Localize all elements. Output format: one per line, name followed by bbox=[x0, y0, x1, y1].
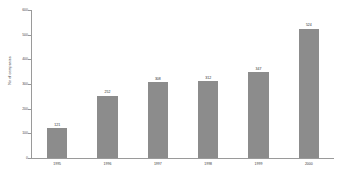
bar-group: 312 bbox=[198, 10, 218, 158]
bar bbox=[97, 96, 117, 158]
bar-group: 308 bbox=[148, 10, 168, 158]
bar bbox=[198, 81, 218, 158]
bar-chart: No of companies 0100200300400500600 1212… bbox=[0, 0, 337, 177]
y-axis-tick-mark bbox=[28, 158, 31, 159]
y-axis-tick-mark bbox=[28, 109, 31, 110]
x-axis-tick-label: 1998 bbox=[183, 162, 233, 167]
bar-group: 121 bbox=[47, 10, 67, 158]
y-axis-tick-mark bbox=[28, 84, 31, 85]
bar-value-label: 121 bbox=[54, 123, 60, 127]
bar-value-label: 252 bbox=[105, 90, 111, 94]
y-axis-tick-label: 400 bbox=[10, 57, 28, 61]
y-axis-tick-label: 200 bbox=[10, 107, 28, 111]
y-axis-tick-mark bbox=[28, 133, 31, 134]
x-axis-line bbox=[31, 158, 334, 159]
bar-value-label: 308 bbox=[155, 77, 161, 81]
y-axis-tick-label: 0 bbox=[10, 156, 28, 160]
bar bbox=[248, 72, 268, 158]
y-axis-tick-labels: 0100200300400500600 bbox=[10, 0, 28, 177]
bar-group: 252 bbox=[97, 10, 117, 158]
x-axis-tick-label: 1996 bbox=[82, 162, 132, 167]
x-axis-tick-labels: 199519961997199819992000 bbox=[32, 162, 334, 174]
x-axis-tick-label: 1999 bbox=[233, 162, 283, 167]
bar bbox=[299, 29, 319, 158]
y-axis-tick-mark bbox=[28, 35, 31, 36]
y-axis-tick-label: 300 bbox=[10, 82, 28, 86]
bar-group: 347 bbox=[248, 10, 268, 158]
y-axis-tick-label: 100 bbox=[10, 131, 28, 135]
bar-value-label: 312 bbox=[205, 76, 211, 80]
y-axis-tick-label: 500 bbox=[10, 33, 28, 37]
bar-value-label: 347 bbox=[256, 67, 262, 71]
plot-area: 121252308312347524 bbox=[32, 10, 334, 158]
bar bbox=[47, 128, 67, 158]
x-axis-tick-label: 1997 bbox=[133, 162, 183, 167]
y-axis-tick-label: 600 bbox=[10, 8, 28, 12]
bar-group: 524 bbox=[299, 10, 319, 158]
y-axis-tick-mark bbox=[28, 10, 31, 11]
bar bbox=[148, 82, 168, 158]
x-axis-tick-label: 1995 bbox=[32, 162, 82, 167]
y-axis-tick-mark bbox=[28, 59, 31, 60]
x-axis-tick-label: 2000 bbox=[284, 162, 334, 167]
bar-value-label: 524 bbox=[306, 23, 312, 27]
